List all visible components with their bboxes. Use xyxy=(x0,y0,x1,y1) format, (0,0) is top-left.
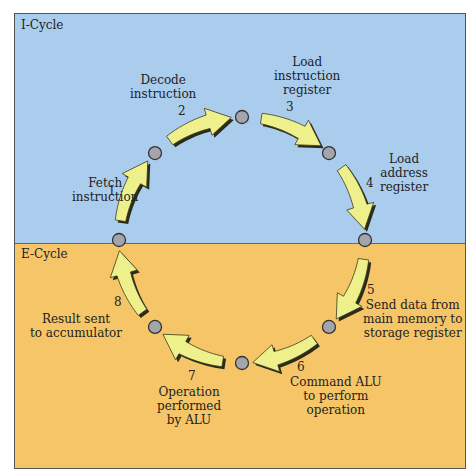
step-4-label: Loadaddressregister xyxy=(380,152,428,194)
step-4-arrow xyxy=(337,165,373,230)
step-2-label: Decodeinstruction xyxy=(130,73,196,101)
step-2-arrow xyxy=(167,108,232,144)
cycle-node xyxy=(236,111,249,124)
step-6-number: 6 xyxy=(297,360,305,374)
step-7-label: Operationperformedby ALU xyxy=(157,385,221,427)
step-7-arrow xyxy=(163,334,224,366)
step-2-number: 2 xyxy=(178,104,186,118)
step-3-number: 3 xyxy=(286,100,294,114)
cycle-node xyxy=(322,320,335,333)
step-1-number: 1 xyxy=(108,184,116,198)
cycle-node xyxy=(322,147,335,160)
cycle-node xyxy=(359,234,372,247)
cycle-node xyxy=(236,357,249,370)
cycle-arrows xyxy=(0,0,474,475)
step-5-label: Send data frommain memory tostorage regi… xyxy=(363,298,462,340)
step-8-label: Result sentto accumulator xyxy=(30,312,122,340)
step-6-label: Command ALUto performoperation xyxy=(290,375,382,417)
step-8-number: 8 xyxy=(114,295,122,309)
step-4-number: 4 xyxy=(366,176,374,190)
step-3-label: Loadinstructionregister xyxy=(274,55,340,97)
step-1-label: Fetchinstruction xyxy=(72,176,138,204)
step-3-arrow xyxy=(260,113,321,145)
step-5-number: 5 xyxy=(367,283,375,297)
cycle-node xyxy=(113,234,126,247)
cycle-node xyxy=(149,320,162,333)
step-7-number: 7 xyxy=(188,369,196,383)
cycle-node xyxy=(149,147,162,160)
